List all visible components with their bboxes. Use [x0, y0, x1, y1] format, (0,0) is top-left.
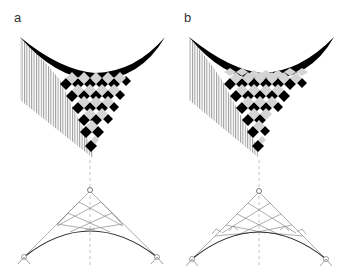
arch-curve-a [24, 231, 157, 257]
support-left-b [186, 257, 198, 267]
diagram-canvas [0, 0, 352, 279]
support-left-a [18, 255, 30, 265]
panel-a-grid-structure [24, 160, 157, 265]
apex-pin-b [257, 189, 262, 194]
panel-b-grid-structure [192, 160, 326, 265]
support-right-a [151, 255, 163, 265]
support-right-b [320, 257, 332, 267]
panel-a-top-surface [20, 37, 165, 158]
panel-b-top-surface [189, 37, 334, 158]
apex-pin-a [88, 188, 93, 193]
